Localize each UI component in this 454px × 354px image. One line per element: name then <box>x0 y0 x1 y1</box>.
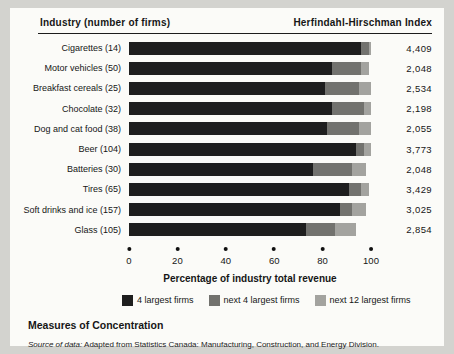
hhi-value: 3,773 <box>371 144 444 155</box>
stacked-bar <box>129 122 371 135</box>
tick-dot-icon <box>175 247 179 251</box>
industry-label: Glass (105) <box>10 225 129 235</box>
legend-label: next 4 largest firms <box>224 295 300 305</box>
chart-row: Chocolate (32)2,198 <box>10 99 444 119</box>
bar-segment <box>335 223 357 236</box>
source-label: Source of data: <box>28 340 82 349</box>
bar-segment <box>129 203 340 216</box>
axis-tick: 60 <box>269 247 280 266</box>
bar-segment <box>359 82 371 95</box>
axis-tick: 100 <box>363 247 379 266</box>
legend-label: 4 largest firms <box>137 295 194 305</box>
legend-item: next 4 largest firms <box>209 295 300 306</box>
industry-label: Breakfast cereals (25) <box>10 83 129 93</box>
bar-segment <box>340 203 352 216</box>
x-axis: 020406080100 <box>129 247 371 272</box>
industry-label: Soft drinks and ice (157) <box>10 205 129 215</box>
bar-segment <box>313 163 352 176</box>
axis-tick: 40 <box>221 247 232 266</box>
bar-segment <box>327 122 358 135</box>
tick-dot-icon <box>321 247 325 251</box>
stacked-bar <box>129 143 371 156</box>
chart-rows: Cigarettes (14)4,409Motor vehicles (50)2… <box>10 38 444 240</box>
bar-segment <box>129 223 306 236</box>
bar-segment <box>364 102 371 115</box>
hhi-value: 4,409 <box>371 43 444 54</box>
chart-row: Breakfast cereals (25)2,534 <box>10 78 444 98</box>
header-right-label: Herfindahl-Hirschman Index <box>293 17 432 28</box>
bar-segment <box>306 223 335 236</box>
axis-tick: 20 <box>172 247 183 266</box>
legend-swatch-icon <box>315 295 326 306</box>
stacked-bar <box>129 203 371 216</box>
chart-row: Cigarettes (14)4,409 <box>10 38 444 58</box>
legend: 4 largest firmsnext 4 largest firmsnext … <box>122 295 444 306</box>
legend-label: next 12 largest firms <box>330 295 411 305</box>
bar-segment <box>361 42 368 55</box>
bar-segment <box>359 122 371 135</box>
bar-segment <box>129 183 349 196</box>
chart-row: Beer (104)3,773 <box>10 139 444 159</box>
industry-label: Beer (104) <box>10 144 129 154</box>
tick-label: 100 <box>363 255 379 266</box>
header-divider <box>38 33 432 34</box>
axis-tick: 80 <box>317 247 328 266</box>
source-text: Adapted from Statistics Canada: Manufact… <box>82 340 379 349</box>
bar-segment <box>361 62 368 75</box>
tick-label: 0 <box>126 255 131 266</box>
figure-panel: Industry (number of firms) Herfindahl-Hi… <box>10 8 444 346</box>
stacked-bar <box>129 82 371 95</box>
chart-row: Tires (65)3,429 <box>10 179 444 199</box>
hhi-value: 3,429 <box>371 184 444 195</box>
tick-dot-icon <box>224 247 228 251</box>
stacked-bar <box>129 42 371 55</box>
bar-segment <box>129 102 332 115</box>
industry-label: Batteries (30) <box>10 164 129 174</box>
tick-label: 20 <box>172 255 183 266</box>
bar-segment <box>364 143 371 156</box>
hhi-value: 2,854 <box>371 224 444 235</box>
chart-row: Motor vehicles (50)2,048 <box>10 58 444 78</box>
industry-label: Motor vehicles (50) <box>10 63 129 73</box>
legend-item: 4 largest firms <box>122 295 194 306</box>
tick-dot-icon <box>369 247 373 251</box>
bar-segment <box>352 203 367 216</box>
chart-row: Dog and cat food (38)2,055 <box>10 119 444 139</box>
x-axis-title: Percentage of industry total revenue <box>129 273 371 284</box>
bar-segment <box>352 163 367 176</box>
bar-segment <box>332 62 361 75</box>
hhi-value: 2,048 <box>371 164 444 175</box>
figure-header: Industry (number of firms) Herfindahl-Hi… <box>10 8 444 33</box>
stacked-bar <box>129 183 371 196</box>
bar-segment <box>129 62 332 75</box>
stacked-bar <box>129 102 371 115</box>
stacked-bar <box>129 223 371 236</box>
bar-segment <box>129 143 356 156</box>
hhi-value: 2,198 <box>371 103 444 114</box>
stacked-bar <box>129 62 371 75</box>
legend-swatch-icon <box>209 295 220 306</box>
industry-label: Cigarettes (14) <box>10 43 129 53</box>
hhi-value: 3,025 <box>371 204 444 215</box>
bar-segment <box>332 102 363 115</box>
tick-dot-icon <box>127 247 131 251</box>
tick-label: 80 <box>317 255 328 266</box>
hhi-value: 2,048 <box>371 63 444 74</box>
stacked-bar <box>129 163 371 176</box>
bar-segment <box>361 183 368 196</box>
tick-label: 60 <box>269 255 280 266</box>
bar-segment <box>325 82 359 95</box>
industry-label: Tires (65) <box>10 184 129 194</box>
chart-row: Soft drinks and ice (157)3,025 <box>10 200 444 220</box>
chart-row: Batteries (30)2,048 <box>10 159 444 179</box>
tick-dot-icon <box>272 247 276 251</box>
industry-label: Chocolate (32) <box>10 104 129 114</box>
bar-segment <box>129 82 325 95</box>
hhi-value: 2,055 <box>371 123 444 134</box>
figure-title: Measures of Concentration <box>28 319 444 331</box>
industry-label: Dog and cat food (38) <box>10 124 129 134</box>
bar-segment <box>349 183 361 196</box>
bar-segment <box>129 122 327 135</box>
header-left-label: Industry (number of firms) <box>40 17 170 28</box>
legend-swatch-icon <box>122 295 133 306</box>
